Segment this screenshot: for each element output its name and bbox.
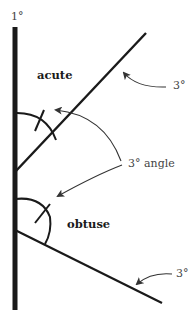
obtuse-angle-arc bbox=[15, 199, 50, 244]
upper-ray bbox=[15, 33, 146, 172]
vertical-line-weight-label: 1° bbox=[11, 10, 24, 23]
angle-diagram: 1° 3° 3° angle 3° acute obtuse bbox=[0, 0, 195, 313]
lower-ray bbox=[15, 230, 162, 303]
acute-label: acute bbox=[37, 68, 72, 82]
upper-ray-weight-label: 3° bbox=[173, 79, 186, 92]
angle-weight-label: 3° angle bbox=[128, 157, 175, 170]
lower-ray-pointer-arrow bbox=[137, 274, 172, 284]
angle-pointer-arrow-lower bbox=[58, 165, 122, 196]
lower-ray-weight-label: 3° bbox=[176, 267, 189, 280]
upper-ray-pointer-arrow bbox=[124, 73, 166, 87]
obtuse-label: obtuse bbox=[67, 217, 110, 231]
